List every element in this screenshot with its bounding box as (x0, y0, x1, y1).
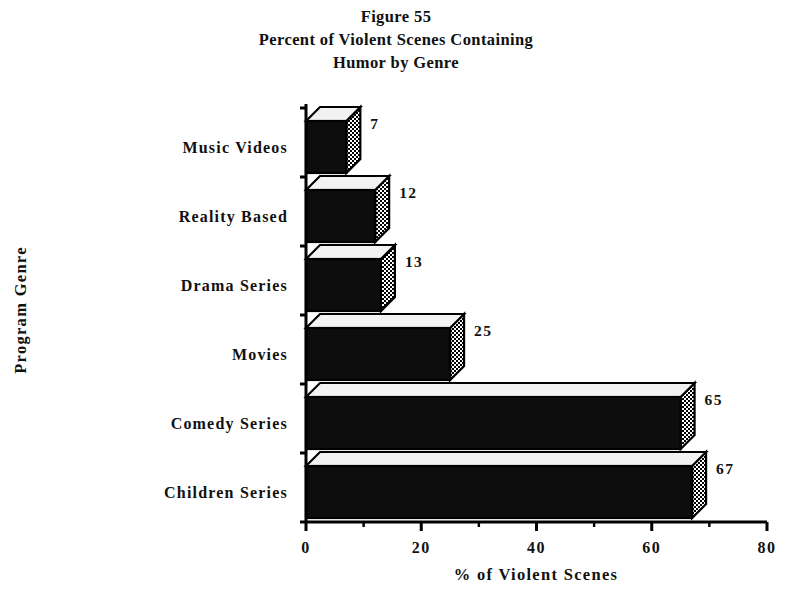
bar-reality-based[interactable] (306, 176, 389, 242)
category-label-2: Drama Series (181, 277, 288, 294)
category-label-0: Music Videos (182, 139, 288, 156)
x-tick-label-0: 0 (301, 539, 311, 556)
bar-chart-svg: Figure 55 Percent of Violent Scenes Cont… (0, 0, 792, 594)
x-axis-title: % of Violent Scenes (454, 565, 618, 584)
x-tick-label-1: 20 (412, 539, 431, 556)
bar-front-face (306, 328, 450, 380)
x-tick-label-4: 80 (757, 539, 776, 556)
category-label-5: Children Series (164, 484, 288, 501)
category-label-1: Reality Based (179, 208, 288, 226)
bar-movies[interactable] (306, 314, 464, 380)
bar-children-series[interactable] (306, 452, 706, 518)
chart-title-line-1: Figure 55 (361, 7, 432, 26)
bar-top-face (306, 383, 695, 397)
value-label-5: 67 (716, 460, 734, 477)
y-axis-title: Program Genre (11, 246, 30, 374)
bar-top-face (306, 314, 464, 328)
bar-music-videos[interactable] (306, 107, 360, 173)
bar-front-face (306, 397, 681, 449)
bar-front-face (306, 466, 692, 518)
figure-55-chart: Figure 55 Percent of Violent Scenes Cont… (0, 0, 792, 594)
value-label-1: 12 (399, 184, 417, 201)
bar-front-face (306, 190, 375, 242)
x-tick-label-2: 40 (527, 539, 546, 556)
bar-top-face (306, 176, 389, 190)
value-label-2: 13 (405, 253, 423, 270)
value-label-3: 25 (474, 322, 492, 339)
bar-front-face (306, 121, 346, 173)
x-tick-label-3: 60 (642, 539, 661, 556)
category-label-4: Comedy Series (171, 415, 288, 433)
bar-front-face (306, 259, 381, 311)
value-label-4: 65 (705, 391, 723, 408)
chart-title-line-2: Percent of Violent Scenes Containing (259, 30, 534, 49)
bar-top-face (306, 245, 395, 259)
bar-top-face (306, 452, 706, 466)
bar-comedy-series[interactable] (306, 383, 695, 449)
value-label-0: 7 (370, 115, 379, 132)
category-label-3: Movies (232, 346, 288, 363)
chart-title-line-3: Humor by Genre (333, 53, 459, 72)
bar-drama-series[interactable] (306, 245, 395, 311)
